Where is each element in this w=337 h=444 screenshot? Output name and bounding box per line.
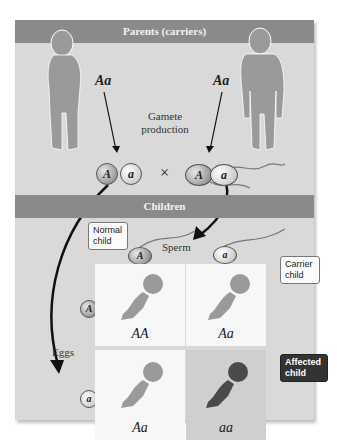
punnett-cell-Aa-top: Aa — [186, 264, 266, 346]
baby-icon — [113, 268, 173, 328]
cell-genotype: aa — [186, 420, 266, 436]
children-band: Children — [15, 195, 314, 218]
carrier-child-callout: Carrier child — [280, 256, 320, 284]
baby-icon — [200, 268, 260, 328]
cell-genotype: Aa — [186, 326, 266, 342]
sperm-gamete-a: a — [210, 164, 238, 186]
cell-genotype: AA — [95, 326, 185, 342]
sperm-col-a: a — [213, 246, 237, 264]
punnett-cell-Aa-bottom: Aa — [95, 350, 185, 440]
affected-baby-icon — [198, 356, 258, 416]
normal-child-callout: Normal child — [88, 222, 128, 250]
sperm-label: Sperm — [162, 241, 191, 254]
cell-genotype: Aa — [95, 420, 185, 436]
punnett-cell-aa: aa — [186, 350, 266, 440]
egg-gamete-A: A — [96, 163, 118, 185]
sperm-col-A: A — [128, 247, 152, 265]
eggs-label: Eggs — [52, 346, 74, 359]
punnett-cell-AA: AA — [95, 264, 185, 346]
baby-icon — [113, 356, 173, 416]
egg-gamete-a: a — [120, 163, 142, 185]
cross-symbol: × — [160, 164, 169, 182]
affected-child-callout: Affected child — [280, 354, 328, 382]
sperm-gamete-A: A — [185, 164, 213, 186]
